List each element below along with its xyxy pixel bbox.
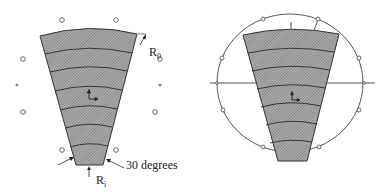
marker-circle [316, 17, 320, 21]
diagram-canvas: R0 30 degrees Ri [0, 0, 389, 194]
marker-circle [114, 18, 119, 23]
inner-radius-indicator: Ri [87, 166, 107, 189]
marker-circle [221, 108, 225, 112]
angle-label: 30 degrees [126, 158, 178, 172]
outer-radius-label: R0 [149, 45, 161, 61]
marker-circle [357, 56, 361, 60]
marker-circle [317, 145, 321, 149]
marker-circle [153, 110, 158, 115]
marker-dot [159, 84, 161, 86]
marker-circle [220, 56, 224, 60]
marker-circle [114, 148, 119, 153]
marker-dot [363, 82, 366, 85]
outer-radius-indicator: R0 [138, 34, 161, 61]
marker-circle [60, 18, 65, 23]
inner-radius-label: Ri [96, 173, 107, 189]
top-right-tick [314, 20, 318, 30]
marker-dot [16, 84, 18, 86]
right-sector-diagram [210, 14, 375, 161]
marker-dot [216, 82, 219, 85]
marker-circle [261, 17, 265, 21]
left-sector-diagram: R0 30 degrees Ri [16, 18, 178, 189]
marker-circle [21, 110, 26, 115]
marker-circle [357, 108, 361, 112]
marker-circle [261, 145, 265, 149]
marker-circle [60, 148, 65, 153]
marker-circle [21, 57, 26, 62]
left-sector-shape [40, 28, 137, 165]
